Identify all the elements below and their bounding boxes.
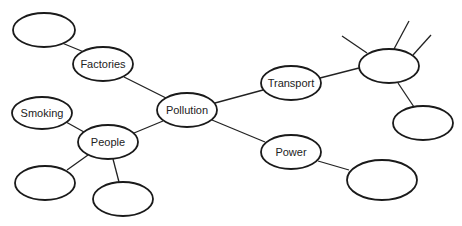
node-ellipse — [13, 13, 75, 47]
node-smoking: Smoking — [12, 97, 72, 129]
node-label: Factories — [80, 58, 126, 70]
edge-people-to-people-child-1 — [67, 155, 88, 170]
edge-people-to-pollution — [134, 121, 163, 133]
node-pollution: Pollution — [157, 93, 217, 127]
edge-factories-to-pollution — [124, 77, 166, 98]
node-ellipse — [359, 49, 419, 83]
node-people: People — [78, 125, 138, 159]
edge-transport-child-to-spoke-1 — [342, 36, 367, 53]
node-ellipse — [347, 160, 417, 200]
node-ellipse — [15, 166, 75, 200]
node-label: Pollution — [166, 104, 208, 116]
node-label: Transport — [268, 77, 315, 89]
edge-pollution-to-transport — [215, 90, 263, 103]
edge-transport-child-to-transport-grandchild — [398, 83, 414, 107]
concept-nodes: PollutionFactoriesPeopleSmokingTransport… — [12, 13, 453, 216]
edge-transport-child-to-spoke-3 — [413, 35, 431, 55]
node-transport: Transport — [261, 66, 321, 100]
edge-factories-child-to-factories — [62, 43, 84, 52]
edge-transport-child-to-spoke-2 — [394, 21, 409, 49]
edge-people-to-people-child-2 — [113, 159, 119, 182]
node-ellipse — [93, 182, 153, 216]
node-power: Power — [261, 135, 321, 169]
edge-transport-to-transport-child — [320, 68, 359, 78]
node-transport-grandchild — [393, 106, 453, 140]
edge-pollution-to-power — [212, 120, 265, 142]
node-label: People — [91, 136, 125, 148]
node-power-child — [347, 160, 417, 200]
node-factories: Factories — [73, 47, 133, 81]
node-people-child-2 — [93, 182, 153, 216]
node-label: Smoking — [21, 107, 64, 119]
node-label: Power — [275, 146, 307, 158]
node-factories-child — [13, 13, 75, 47]
edge-power-to-power-child — [318, 161, 349, 170]
edge-smoking-to-people — [66, 122, 84, 132]
node-ellipse — [393, 106, 453, 140]
node-people-child-1 — [15, 166, 75, 200]
pollution-mind-map: PollutionFactoriesPeopleSmokingTransport… — [0, 0, 462, 226]
node-transport-child — [359, 49, 419, 83]
